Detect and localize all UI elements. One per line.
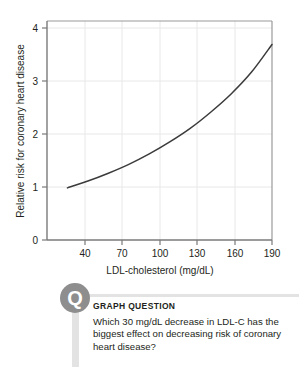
callout-rule bbox=[86, 294, 299, 297]
chart-figure: 4 3 2 1 0 40 70 100 130 160 190 LDL-chol… bbox=[0, 0, 299, 280]
y-tick-label: 2 bbox=[32, 129, 38, 140]
graph-question-callout: Q GRAPH QUESTION Which 30 mg/dL decrease… bbox=[60, 283, 299, 367]
y-tick-label: 1 bbox=[32, 182, 38, 193]
relative-risk-line-chart: 4 3 2 1 0 40 70 100 130 160 190 LDL-chol… bbox=[0, 0, 299, 280]
x-axis-title: LDL-cholesterol (mg/dL) bbox=[106, 265, 213, 276]
graph-question-label: GRAPH QUESTION bbox=[93, 301, 293, 311]
y-axis-title: Relative risk for coronary heart disease bbox=[15, 44, 26, 218]
x-tick-label: 130 bbox=[189, 248, 206, 259]
y-axis-tick-labels: 4 3 2 1 0 bbox=[32, 23, 38, 246]
x-tick-label: 160 bbox=[227, 248, 244, 259]
risk-curve-line bbox=[67, 44, 272, 187]
x-tick-label: 190 bbox=[264, 248, 281, 259]
x-tick-label: 100 bbox=[152, 248, 169, 259]
y-tick-label: 3 bbox=[32, 76, 38, 87]
x-axis-tick-labels: 40 70 100 130 160 190 bbox=[79, 248, 280, 259]
y-axis-ticks bbox=[42, 28, 47, 240]
graph-question-text: Which 30 mg/dL decrease in LDL-C has the… bbox=[93, 316, 293, 353]
x-tick-label: 70 bbox=[116, 248, 128, 259]
y-tick-label: 0 bbox=[32, 235, 38, 246]
x-tick-label: 40 bbox=[79, 248, 91, 259]
x-axis-ticks bbox=[85, 240, 272, 245]
y-tick-label: 4 bbox=[32, 23, 38, 34]
question-mark-circle-icon: Q bbox=[60, 283, 90, 313]
callout-stem bbox=[72, 305, 79, 367]
vertical-gridlines bbox=[85, 21, 235, 240]
